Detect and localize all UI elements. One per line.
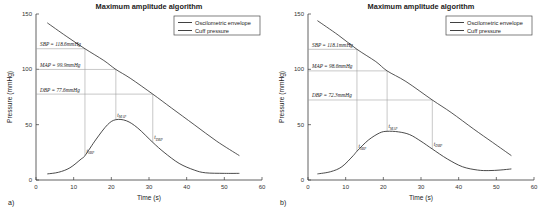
legend-label-0: Oscilometric envelope <box>467 20 523 26</box>
x-axis-label: Time (s) <box>409 194 433 202</box>
time-marker-t-sbp: tSBP <box>358 143 366 150</box>
figure-root: Maximum amplitude algorithm0102030405060… <box>0 0 543 208</box>
annotation-map: MAP = 98.6mmHg <box>311 63 353 69</box>
annotation-map: MAP = 99.9mmHg <box>39 62 81 68</box>
legend-label-0: Oscilometric envelope <box>195 20 251 26</box>
annotation-dbp: DBP = 77.6mmHg <box>39 87 80 93</box>
x-tick-label: 30 <box>146 184 153 190</box>
chart-title: Maximum amplitude algorithm <box>96 2 203 11</box>
x-tick-label: 50 <box>493 184 500 190</box>
series-oscilometric-envelope <box>317 131 511 174</box>
x-tick-label: 0 <box>306 184 310 190</box>
y-tick-label: 0 <box>301 177 305 183</box>
time-marker-t-map: tMAP <box>117 112 127 119</box>
x-tick-label: 40 <box>455 184 462 190</box>
y-tick-label: 50 <box>25 122 32 128</box>
y-tick-label: 100 <box>22 66 33 72</box>
legend-label-1: Cuff pressure <box>467 28 501 34</box>
panel-b-label: b) <box>280 199 286 206</box>
x-tick-label: 40 <box>183 184 190 190</box>
y-tick-label: 150 <box>22 11 33 17</box>
panel-a: Maximum amplitude algorithm0102030405060… <box>0 0 271 208</box>
x-tick-label: 30 <box>418 184 425 190</box>
y-tick-label: 0 <box>29 177 33 183</box>
panel-a-label: a) <box>8 199 14 206</box>
x-tick-label: 10 <box>70 184 77 190</box>
time-marker-t-dbp: tDBP <box>154 134 163 141</box>
series-oscilometric-envelope <box>47 119 239 174</box>
time-marker-t-sbp: tSBP <box>86 148 94 155</box>
y-tick-label: 150 <box>294 11 305 17</box>
time-marker-t-map: tMAP <box>389 123 399 130</box>
legend-label-1: Cuff pressure <box>195 28 229 34</box>
x-tick-label: 60 <box>531 184 538 190</box>
panel-a-plot: Maximum amplitude algorithm0102030405060… <box>0 0 271 208</box>
panel-b-plot: Maximum amplitude algorithm0102030405060… <box>272 0 543 208</box>
x-tick-label: 20 <box>380 184 387 190</box>
annotation-sbp: SBP = 118.6mmHg <box>40 41 81 47</box>
annotation-dbp: DBP = 72.3mmHg <box>311 92 352 98</box>
time-marker-t-dbp: tDBP <box>434 141 443 148</box>
y-axis-label: Pressure (mmHg) <box>6 71 14 123</box>
panel-b: Maximum amplitude algorithm0102030405060… <box>272 0 543 208</box>
x-tick-label: 10 <box>342 184 349 190</box>
annotation-sbp: SBP = 118.1mmHg <box>312 42 353 48</box>
x-tick-label: 20 <box>108 184 115 190</box>
x-tick-label: 60 <box>259 184 266 190</box>
x-tick-label: 0 <box>34 184 38 190</box>
x-tick-label: 50 <box>221 184 228 190</box>
chart-title: Maximum amplitude algorithm <box>368 2 475 11</box>
y-tick-label: 50 <box>297 122 304 128</box>
y-tick-label: 100 <box>294 66 305 72</box>
x-axis-label: Time (s) <box>137 194 161 202</box>
y-axis-label: Pressure (mmHg) <box>278 71 286 123</box>
